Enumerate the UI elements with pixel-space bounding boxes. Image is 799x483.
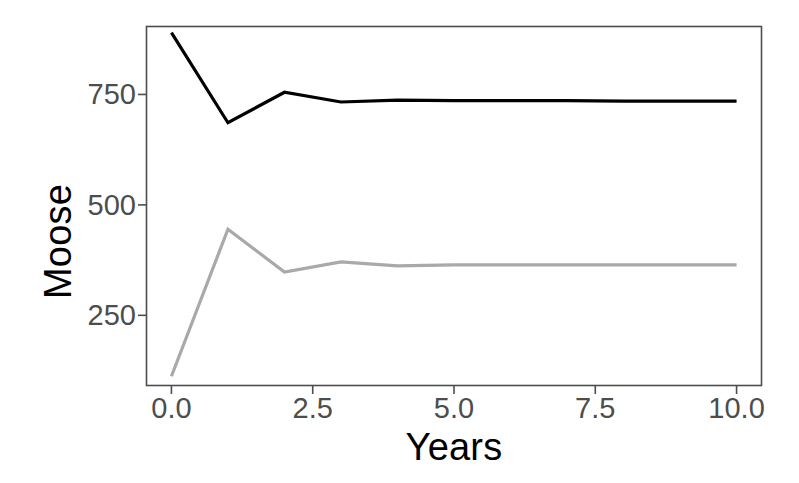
plot-canvas [0, 0, 799, 483]
chart-figure: Moose Years 250500750 0.02.55.07.510.0 [0, 0, 799, 483]
panel-border [147, 27, 762, 386]
